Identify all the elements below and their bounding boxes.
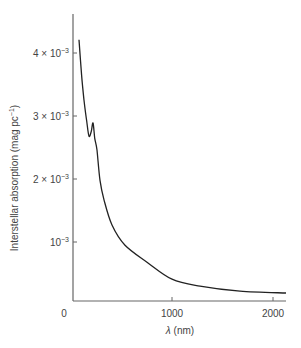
y-tick-label: 10−3 (50, 236, 69, 248)
y-tick-label: 2 × 10−3 (33, 173, 69, 185)
y-tick-label: 3 × 10−3 (33, 110, 69, 122)
x-tick-label: 0 (61, 308, 67, 319)
plot-area (79, 40, 286, 293)
x-tick-label: 2000 (262, 308, 285, 319)
y-axis: 10−32 × 10−33 × 10−34 × 10−3 (33, 14, 77, 301)
x-axis-label: λ (nm) (165, 325, 194, 336)
series-line (79, 40, 286, 293)
x-axis: 010002000 (61, 297, 286, 319)
y-axis-label: Interstellar absorption (mag pc−1) (8, 105, 20, 251)
x-tick-label: 1000 (161, 308, 184, 319)
y-tick-label: 4 × 10−3 (33, 47, 69, 59)
chart: 10−32 × 10−33 × 10−34 × 10−3 010002000 λ… (0, 0, 301, 348)
